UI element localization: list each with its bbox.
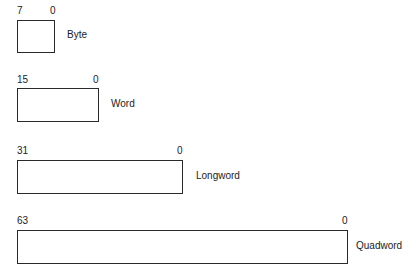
low-bit-label: 0: [177, 146, 183, 156]
unit-label: Longword: [196, 171, 240, 181]
low-bit-label: 0: [50, 6, 56, 16]
high-bit-label: 7: [17, 6, 23, 16]
low-bit-label: 0: [342, 216, 348, 226]
unit-label: Quadword: [356, 241, 402, 251]
high-bit-label: 63: [17, 216, 28, 226]
high-bit-label: 31: [17, 146, 28, 156]
high-bit-label: 15: [17, 75, 28, 85]
byte-box: [17, 20, 55, 53]
quadword-box: [17, 230, 348, 264]
longword-box: [17, 160, 183, 194]
word-box: [17, 88, 99, 122]
low-bit-label: 0: [93, 75, 99, 85]
unit-label: Byte: [67, 30, 87, 40]
unit-label: Word: [111, 99, 135, 109]
